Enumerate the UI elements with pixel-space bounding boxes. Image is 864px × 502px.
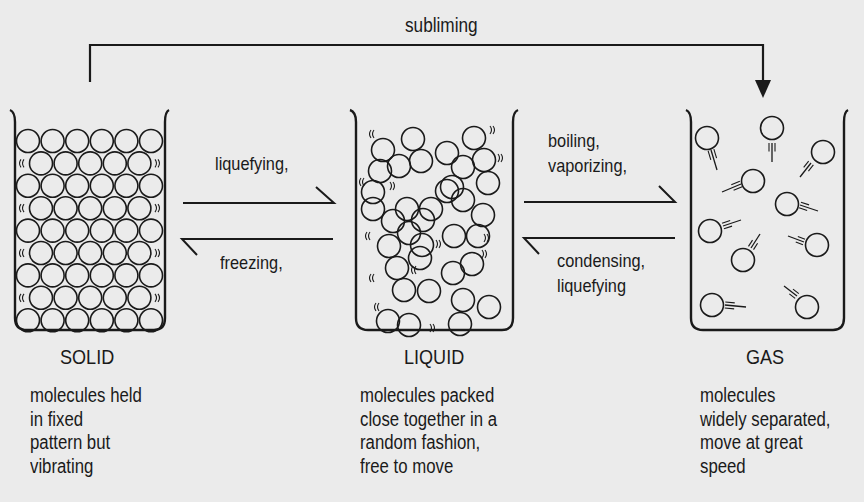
gas-description: molecules widely separated, move at grea…: [700, 384, 831, 478]
molecule: [90, 130, 113, 153]
molecule: [140, 174, 163, 197]
molecule: [103, 286, 126, 309]
solid-description: molecules held in fixed pattern but vibr…: [30, 384, 142, 478]
condensing-label: condensing,: [557, 250, 645, 272]
molecule: [398, 222, 421, 245]
molecule: [452, 156, 475, 179]
molecule: [17, 130, 40, 153]
molecule: [79, 152, 102, 175]
molecule: [402, 128, 425, 151]
molecule: [418, 280, 441, 303]
gas-desc-line: widely separated,: [700, 408, 831, 432]
boiling-arrow: [524, 186, 675, 202]
molecule: [128, 286, 151, 309]
molecule: [115, 130, 138, 153]
liquid-title: LIQUID: [404, 345, 464, 369]
molecule: [115, 264, 138, 287]
molecule: [66, 130, 89, 153]
molecule: [41, 309, 64, 332]
gas-desc-line: molecules: [700, 384, 831, 408]
molecule: [41, 130, 64, 153]
molecule: [699, 220, 722, 243]
vaporizing-label: vaporizing,: [548, 155, 627, 177]
molecule: [386, 257, 409, 280]
molecule: [41, 174, 64, 197]
molecule: [30, 152, 53, 175]
liquefying-gas-label: liquefying: [557, 275, 626, 297]
molecule: [115, 309, 138, 332]
molecule: [30, 197, 53, 220]
molecule: [701, 294, 724, 317]
molecule: [472, 204, 495, 227]
liquid-description: molecules packed close together in a ran…: [360, 384, 497, 478]
molecule: [732, 249, 755, 272]
molecule: [128, 197, 151, 220]
molecule: [128, 242, 151, 265]
molecule: [812, 141, 835, 164]
solid-title: SOLID: [60, 345, 114, 369]
solid-liquid-arrows: [182, 187, 334, 255]
molecule: [806, 234, 829, 257]
molecule: [79, 197, 102, 220]
molecule: [30, 286, 53, 309]
molecule: [378, 235, 401, 258]
molecule: [54, 197, 77, 220]
liquefying-arrow: [183, 187, 334, 203]
molecule: [103, 242, 126, 265]
gas-title: GAS: [746, 345, 784, 369]
molecule: [90, 219, 113, 242]
molecule: [103, 197, 126, 220]
molecule: [696, 127, 719, 150]
molecule: [103, 152, 126, 175]
molecule: [66, 174, 89, 197]
molecule: [477, 172, 500, 195]
molecule: [140, 219, 163, 242]
molecule: [115, 174, 138, 197]
molecule: [17, 309, 40, 332]
liquid-desc-line: random fashion,: [360, 431, 497, 455]
liquid-desc-line: molecules packed: [360, 384, 497, 408]
solid-desc-line: pattern but: [30, 431, 142, 455]
molecule: [17, 264, 40, 287]
liquid-desc-line: free to move: [360, 455, 497, 479]
molecule: [396, 198, 419, 221]
molecule: [79, 286, 102, 309]
molecule: [128, 152, 151, 175]
molecule: [54, 152, 77, 175]
solid-particles: [17, 130, 163, 332]
molecule: [17, 174, 40, 197]
molecule: [79, 242, 102, 265]
molecule: [398, 314, 421, 337]
solid-desc-line: vibrating: [30, 455, 142, 479]
subliming-arrow: [90, 45, 771, 98]
molecule: [90, 174, 113, 197]
molecule: [443, 225, 466, 248]
molecule: [30, 242, 53, 265]
molecule: [761, 117, 784, 140]
molecule: [66, 309, 89, 332]
molecule: [140, 264, 163, 287]
gas-desc-line: move at great: [700, 431, 831, 455]
subliming-label: subliming: [405, 14, 478, 36]
molecule: [66, 219, 89, 242]
molecule: [452, 289, 475, 312]
molecule: [449, 313, 472, 336]
molecule: [473, 149, 496, 172]
molecule: [41, 264, 64, 287]
molecule: [409, 247, 432, 270]
molecule: [776, 193, 799, 216]
solid-desc-line: molecules held: [30, 384, 142, 408]
molecule: [17, 219, 40, 242]
molecule: [410, 150, 433, 173]
molecule: [115, 219, 138, 242]
molecule: [382, 210, 405, 233]
molecule: [66, 264, 89, 287]
molecule: [140, 130, 163, 153]
molecule: [393, 279, 416, 302]
liquid-desc-line: close together in a: [360, 408, 497, 432]
liquefying-label: liquefying,: [215, 153, 289, 175]
gas-desc-line: speed: [700, 455, 831, 479]
molecule: [436, 142, 459, 165]
molecule: [90, 309, 113, 332]
liquid-particles: [360, 126, 503, 337]
